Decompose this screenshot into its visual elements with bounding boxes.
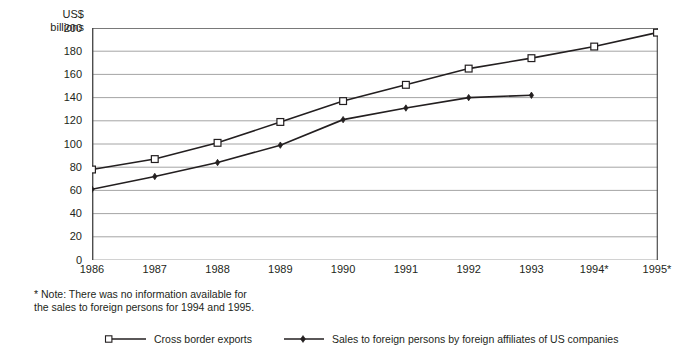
y-tick-label: 60 [48,185,82,196]
legend-label: Sales to foreign persons by foreign affi… [332,333,618,345]
data-point [654,29,658,36]
chart-canvas [92,28,658,260]
y-tick-label: 180 [48,46,82,57]
data-point [151,156,158,163]
x-tick-label: 1992 [439,264,499,275]
data-point [278,142,282,148]
x-tick-label: 1986 [62,264,122,275]
legend-item-sales-foreign-affiliates: Sales to foreign persons by foreign affi… [282,330,618,348]
x-tick-label: 1995* [627,264,687,275]
data-point [153,173,157,179]
y-tick-label: 100 [48,139,82,150]
x-tick-label: 1991 [376,264,436,275]
data-point [402,81,409,88]
y-tick-label: 140 [48,92,82,103]
data-point [528,55,535,62]
plot-area [92,28,658,260]
data-point [92,186,94,192]
data-point [214,139,221,146]
data-point [215,159,219,165]
data-point [465,65,472,72]
x-tick-label: 1990 [313,264,373,275]
x-tick-label: 1987 [125,264,185,275]
chart-figure: US$ billions 200180160140120100806040200… [0,0,691,353]
data-point [341,116,345,122]
x-tick-label: 1988 [188,264,248,275]
x-tick-label: 1994* [564,264,624,275]
legend-label: Cross border exports [154,333,252,345]
data-point [340,98,347,105]
data-point [92,166,95,173]
data-point [404,105,408,111]
chart-note: * Note: There was no information availab… [34,288,254,313]
legend-item-cross-border-exports: Cross border exports [104,330,252,348]
y-tick-label: 80 [48,162,82,173]
x-tick-label: 1989 [250,264,310,275]
data-point [277,119,284,126]
chart-legend: Cross border exports Sales to foreign pe… [0,330,691,350]
data-point [467,94,471,100]
legend-swatch-open-square [104,333,148,345]
y-tick-label: 160 [48,69,82,80]
data-point [591,43,598,50]
series-line-1 [92,95,531,189]
y-tick-label: 200 [48,23,82,34]
y-tick-label: 120 [48,115,82,126]
series-line-0 [92,33,657,170]
x-tick-label: 1993 [501,264,561,275]
y-tick-label: 20 [48,231,82,242]
y-tick-label: 40 [48,208,82,219]
legend-swatch-diamond [282,333,326,345]
